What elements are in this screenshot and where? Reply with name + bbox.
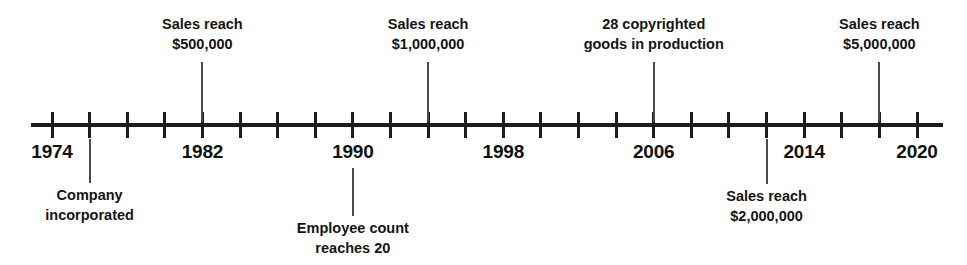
axis-tick-1980 [163, 112, 166, 138]
annotation-line-1: Company [45, 185, 134, 205]
annotation-line-2: goods in production [584, 34, 724, 54]
axis-tick-2016 [840, 112, 843, 138]
annotation-line-2: $500,000 [162, 34, 243, 54]
axis-year-label-2014: 2014 [783, 141, 824, 163]
annotation-line-1: Employee count [297, 218, 409, 238]
annotation-connector-company-incorporated [89, 139, 91, 183]
annotation-line-1: 28 copyrighted [584, 14, 724, 34]
annotation-sales-2m: Sales reach$2,000,000 [726, 186, 807, 226]
axis-tick-2004 [615, 112, 618, 138]
annotation-line-2: reaches 20 [297, 238, 409, 258]
annotation-line-2: $1,000,000 [388, 34, 469, 54]
annotation-sales-500k: Sales reach$500,000 [162, 14, 243, 54]
axis-tick-1996 [464, 112, 467, 138]
axis-tick-1986 [276, 112, 279, 138]
axis-tick-2008 [690, 112, 693, 138]
annotation-company-incorporated: Companyincorporated [45, 185, 134, 225]
timeline-axis-line [31, 123, 943, 127]
annotation-line-1: Sales reach [388, 14, 469, 34]
annotation-copyrighted-goods: 28 copyrightedgoods in production [584, 14, 724, 54]
axis-tick-2020 [916, 112, 919, 138]
axis-year-label-1998: 1998 [483, 141, 524, 163]
annotation-connector-copyrighted-goods [653, 62, 655, 122]
axis-tick-1988 [314, 112, 317, 138]
axis-tick-1990 [351, 112, 354, 138]
annotation-connector-employee-count [352, 168, 354, 216]
axis-year-label-2020: 2020 [896, 141, 937, 163]
annotation-line-1: Sales reach [839, 14, 920, 34]
annotation-line-2: $2,000,000 [726, 206, 807, 226]
annotation-employee-count: Employee countreaches 20 [297, 218, 409, 258]
annotation-line-1: Sales reach [162, 14, 243, 34]
axis-tick-2014 [803, 112, 806, 138]
annotation-line-2: $5,000,000 [839, 34, 920, 54]
axis-tick-1976 [88, 112, 91, 138]
axis-tick-1978 [126, 112, 129, 138]
annotation-line-2: incorporated [45, 205, 134, 225]
annotation-line-1: Sales reach [726, 186, 807, 206]
axis-tick-2000 [539, 112, 542, 138]
axis-year-label-1982: 1982 [182, 141, 223, 163]
axis-tick-1974 [51, 112, 54, 138]
axis-tick-2010 [727, 112, 730, 138]
axis-tick-1998 [502, 112, 505, 138]
annotation-connector-sales-1m [427, 62, 429, 122]
annotation-sales-5m: Sales reach$5,000,000 [839, 14, 920, 54]
annotation-connector-sales-500k [201, 62, 203, 122]
timeline-figure: 1974198219901998200620142020 Sales reach… [0, 0, 967, 265]
axis-tick-1984 [239, 112, 242, 138]
axis-year-label-2006: 2006 [633, 141, 674, 163]
axis-tick-1992 [389, 112, 392, 138]
annotation-connector-sales-5m [878, 62, 880, 122]
annotation-sales-1m: Sales reach$1,000,000 [388, 14, 469, 54]
axis-year-label-1974: 1974 [31, 141, 72, 163]
annotation-connector-sales-2m [766, 139, 768, 184]
axis-tick-2002 [577, 112, 580, 138]
axis-tick-2012 [765, 112, 768, 138]
axis-year-label-1990: 1990 [332, 141, 373, 163]
